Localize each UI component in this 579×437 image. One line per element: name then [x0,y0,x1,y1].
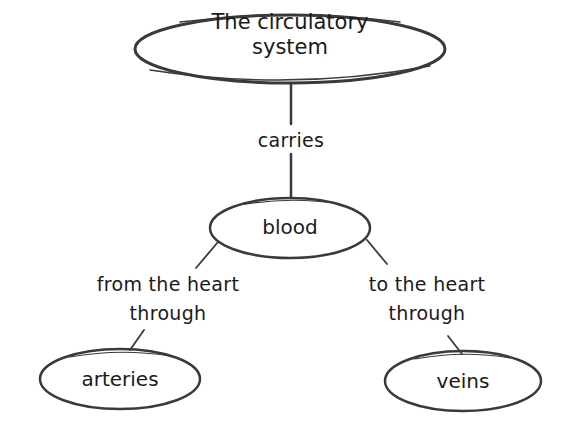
veins-node-label: veins [413,369,513,394]
root-node-line1: The circulatory [190,10,390,35]
connector-blood-right [367,240,387,264]
edge-label-left-line1: from the heart [68,272,268,296]
connector-blood-left [196,242,218,268]
connector-left-arteries [130,330,144,350]
edge-label-left: from the heart through [68,272,268,325]
edge-label-carries: carries [241,128,341,152]
root-node-label: The circulatory system [190,10,390,60]
root-node-line2: system [190,35,390,60]
edge-label-right: to the heart through [327,272,527,325]
edge-label-right-line2: through [327,301,527,325]
arteries-node-label: arteries [60,367,180,392]
edge-label-left-line2: through [68,301,268,325]
edge-label-right-line1: to the heart [327,272,527,296]
blood-node-label: blood [240,215,340,240]
